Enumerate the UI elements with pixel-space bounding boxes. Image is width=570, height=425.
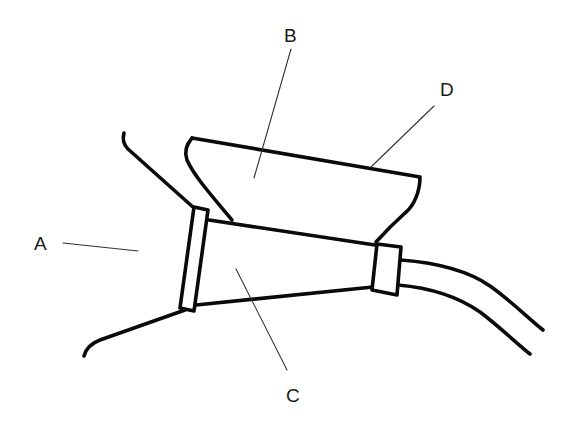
right-collar bbox=[372, 244, 401, 295]
label-b: B bbox=[284, 25, 297, 46]
leader-b bbox=[254, 49, 291, 178]
left-collar bbox=[180, 207, 208, 311]
leader-a bbox=[63, 243, 138, 251]
leader-d bbox=[371, 106, 434, 167]
label-c: C bbox=[286, 385, 300, 406]
part-c-cone bbox=[196, 220, 375, 305]
diagram-canvas: A B C D bbox=[0, 0, 570, 425]
leader-c bbox=[236, 269, 287, 370]
leader-lines bbox=[63, 49, 434, 370]
label-a: A bbox=[34, 233, 47, 254]
hose bbox=[398, 260, 543, 354]
label-d: D bbox=[440, 79, 454, 100]
part-a-wall bbox=[84, 133, 194, 356]
